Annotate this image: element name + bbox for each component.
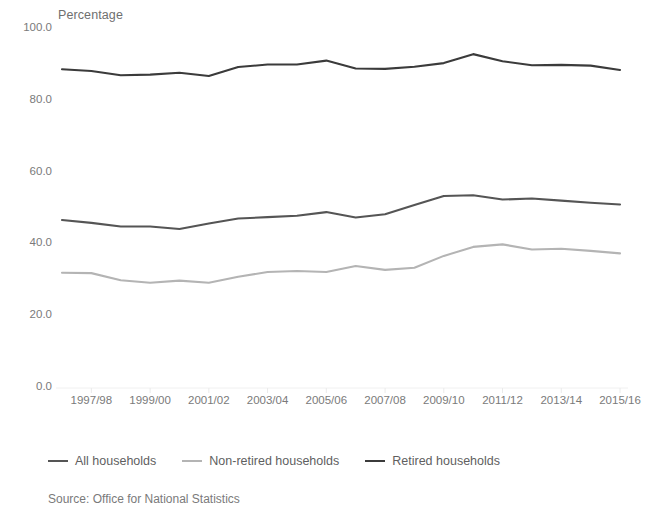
series-line (62, 244, 620, 282)
x-axis-tick: 2005/06 (306, 394, 348, 406)
legend-label: Retired households (392, 455, 500, 468)
x-axis-tick: 2013/14 (540, 394, 582, 406)
legend-line-icon (48, 460, 68, 462)
x-axis-tick: 2015/16 (599, 394, 641, 406)
x-axis-tick: 2011/12 (482, 394, 523, 406)
x-axis-tick: 1997/98 (71, 394, 113, 406)
legend-label: Non-retired households (209, 455, 339, 468)
legend-line-icon (182, 460, 202, 462)
legend-item[interactable]: Non-retired households (182, 455, 339, 468)
plot-area (0, 0, 648, 420)
legend-line-icon (365, 460, 385, 462)
x-axis-tick: 1999/00 (129, 394, 171, 406)
x-axis-tick: 2007/08 (364, 394, 406, 406)
x-axis-tick: 2009/10 (423, 394, 465, 406)
series-line (62, 54, 620, 76)
x-axis-tick: 2003/04 (247, 394, 289, 406)
series-line (62, 195, 620, 229)
legend-label: All households (75, 455, 156, 468)
chart-legend: All householdsNon-retired householdsReti… (48, 455, 500, 468)
legend-item[interactable]: All households (48, 455, 156, 468)
x-axis-tick: 2001/02 (188, 394, 230, 406)
series-canvas (0, 0, 648, 420)
legend-item[interactable]: Retired households (365, 455, 500, 468)
source-note: Source: Office for National Statistics (48, 492, 240, 506)
